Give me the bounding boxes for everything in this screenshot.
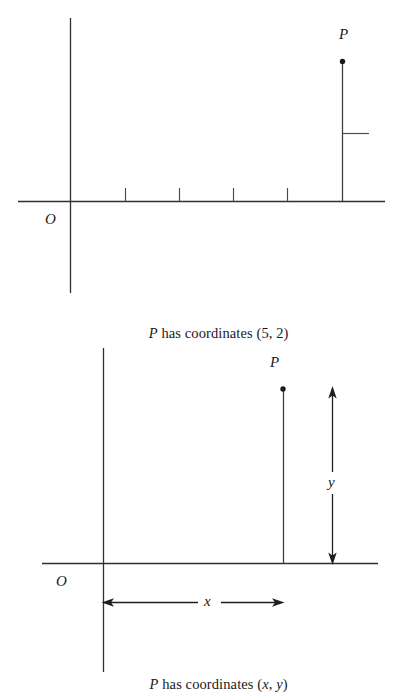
caption-bottom-close-paren: ) — [283, 676, 288, 692]
y-dimension-label: y — [328, 475, 335, 490]
caption-top-point-symbol: P — [149, 325, 158, 341]
origin-label-bottom: O — [56, 574, 67, 589]
point-label-p-top: P — [339, 27, 348, 42]
panel-general-graphics — [42, 348, 378, 672]
x-dimension-arrow — [102, 598, 285, 606]
caption-bottom-point-symbol: P — [150, 676, 159, 692]
point-marker-p-top — [340, 59, 345, 64]
origin-label-top: O — [45, 212, 56, 227]
caption-top: P has coordinates (5, 2) — [0, 297, 400, 370]
point-label-p-bottom: P — [270, 355, 279, 370]
point-marker-p-bottom — [280, 386, 285, 391]
caption-bottom-text: has coordinates ( — [159, 676, 263, 692]
caption-bottom: P has coordinates (x, y) — [0, 648, 400, 697]
x-dimension-label: x — [204, 594, 211, 609]
caption-top-text: has coordinates (5, 2) — [158, 325, 289, 341]
panel-numeric-graphics — [18, 18, 385, 293]
